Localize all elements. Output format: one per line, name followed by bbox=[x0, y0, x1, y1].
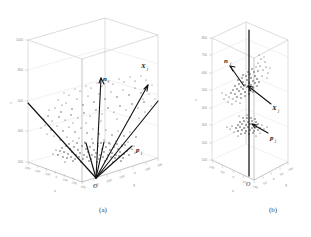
axes-box-b bbox=[212, 22, 288, 180]
y-tick-label: 100 bbox=[288, 166, 294, 172]
x-tick-label: -100 bbox=[44, 171, 51, 177]
y-tick-label: 0 bbox=[272, 177, 275, 181]
figure-container: 1000 800 600 400 200 z -300 -200 -100 0 … bbox=[0, 0, 311, 237]
panel-b: 800 700 600 500 400 300 200 100 z -100 -… bbox=[186, 0, 311, 215]
overlay-b bbox=[230, 30, 271, 176]
x-tick-label: 300 bbox=[80, 184, 86, 189]
x-tick-label: -300 bbox=[24, 165, 31, 171]
label-n-a: n bbox=[103, 75, 107, 83]
x-axis-b: -100 -50 0 50 100 x bbox=[208, 160, 259, 193]
x-tick-label: -200 bbox=[34, 168, 41, 174]
vector-X-line-a bbox=[96, 85, 148, 178]
z-tick-label: 600 bbox=[18, 99, 23, 103]
vector-p-line-a bbox=[96, 146, 132, 178]
label-n-sub-b: i bbox=[230, 61, 232, 66]
y-tick-label: -200 bbox=[105, 178, 112, 184]
z-tick-label: 600 bbox=[202, 71, 207, 75]
vector-n-line-a bbox=[96, 78, 101, 178]
x-axis-a: -300 -200 -100 0 100 200 300 x bbox=[24, 162, 87, 193]
y-tick-label: -100 bbox=[118, 174, 125, 180]
panel-b-plot: 800 700 600 500 400 300 200 100 z -100 -… bbox=[186, 0, 311, 215]
y-axis-title: y bbox=[133, 183, 135, 187]
x-tick-label: 0 bbox=[232, 175, 235, 179]
label-n-b: n bbox=[224, 57, 228, 65]
y-tick-label: -50 bbox=[262, 180, 268, 185]
label-X-b: X bbox=[271, 104, 277, 112]
cone-left-edge bbox=[28, 103, 96, 178]
z-tick-label: 800 bbox=[18, 68, 23, 72]
vector-p-line-b bbox=[252, 124, 268, 133]
y-axis-title: y bbox=[285, 183, 287, 187]
label-origin-b: O bbox=[246, 181, 251, 187]
z-tick-label: 500 bbox=[202, 88, 207, 92]
label-origin-a: O bbox=[93, 183, 98, 189]
label-X-a: X bbox=[140, 62, 146, 70]
axes-box-a bbox=[28, 18, 158, 182]
z-axis-title: z bbox=[194, 99, 198, 101]
z-tick-label: 100 bbox=[202, 158, 207, 162]
caption-b: (b) bbox=[253, 206, 293, 214]
label-p-a: p bbox=[135, 146, 140, 154]
label-p-sub-a: j bbox=[140, 150, 143, 155]
z-axis-b: 800 700 600 500 400 300 200 100 z bbox=[194, 36, 212, 162]
label-p-b: p bbox=[269, 134, 274, 142]
z-axis-title: z bbox=[9, 102, 13, 104]
z-tick-label: 1000 bbox=[16, 38, 23, 42]
z-tick-label: 400 bbox=[202, 106, 207, 110]
y-axis-a: -300 -200 -100 0 100 200 y bbox=[92, 158, 163, 188]
panel-a-plot: 1000 800 600 400 200 z -300 -200 -100 0 … bbox=[0, 0, 165, 215]
label-X-sub-a: j bbox=[146, 66, 149, 71]
caption-a: (a) bbox=[83, 206, 123, 214]
z-axis-a: 1000 800 600 400 200 z bbox=[9, 38, 28, 164]
label-X-sub-b: j bbox=[277, 108, 280, 113]
x-tick-label: 100 bbox=[62, 177, 68, 182]
label-n-sub-a: i bbox=[108, 79, 110, 84]
z-tick-label: 400 bbox=[18, 129, 23, 133]
y-tick-label: 100 bbox=[145, 166, 151, 171]
panel-a: 1000 800 600 400 200 z -300 -200 -100 0 … bbox=[0, 0, 165, 215]
cone-overlay-a bbox=[28, 78, 158, 178]
y-tick-label: 200 bbox=[157, 162, 163, 167]
label-p-sub-b: j bbox=[274, 138, 277, 143]
y-tick-label: 50 bbox=[279, 171, 284, 176]
x-tick-label: 100 bbox=[252, 184, 258, 189]
x-tick-label: 0 bbox=[55, 175, 58, 179]
z-tick-label: 200 bbox=[202, 141, 207, 145]
z-tick-label: 700 bbox=[202, 53, 207, 57]
vector-n-head-b bbox=[230, 66, 235, 71]
y-tick-label: 0 bbox=[133, 171, 136, 175]
z-tick-label: 300 bbox=[202, 123, 207, 127]
y-axis-b: -50 0 50 100 y bbox=[262, 162, 294, 187]
z-tick-label: 200 bbox=[18, 160, 23, 164]
x-axis-title: x bbox=[232, 189, 234, 193]
x-tick-label: -50 bbox=[220, 169, 226, 174]
x-tick-label: -100 bbox=[208, 164, 215, 170]
x-tick-label: 200 bbox=[71, 180, 77, 185]
x-axis-title: x bbox=[54, 189, 56, 193]
vector-X-line-b bbox=[248, 86, 271, 104]
z-tick-label: 800 bbox=[202, 36, 207, 40]
